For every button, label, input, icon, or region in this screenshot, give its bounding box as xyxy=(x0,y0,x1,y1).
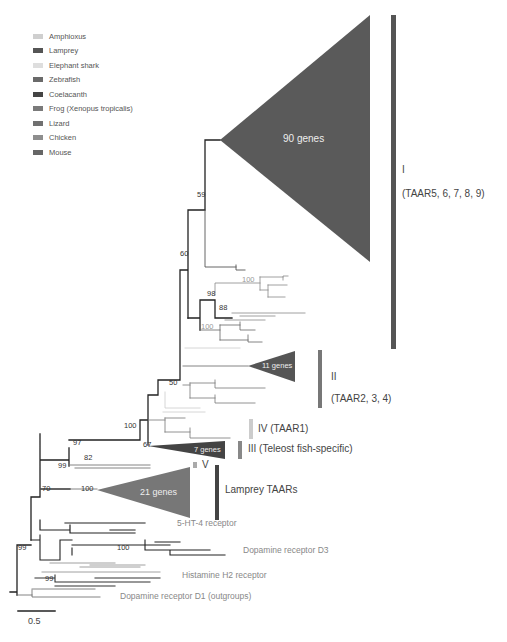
clade-III-gene-count: 7 genes xyxy=(194,445,221,454)
bootstrap-value: 100 xyxy=(124,421,137,430)
clade-III-label: III (Teleost fish-specific) xyxy=(248,443,352,454)
bootstrap-value: 99 xyxy=(45,574,53,583)
bootstrap-value: 50 xyxy=(169,378,177,387)
legend-swatch xyxy=(33,135,43,140)
clade-V-label: V xyxy=(202,459,209,470)
bootstrap-value: 100 xyxy=(242,275,255,284)
legend-item: Mouse xyxy=(33,145,133,160)
clade-I-description: (TAAR5, 6, 7, 8, 9) xyxy=(402,188,485,199)
legend-item: Elephant shark xyxy=(33,58,133,73)
clade-II-description: (TAAR2, 3, 4) xyxy=(331,393,391,404)
bootstrap-value: 99 xyxy=(18,543,26,552)
clade-I-gene-count: 90 genes xyxy=(283,133,324,144)
legend-swatch xyxy=(33,63,43,68)
legend-item: Frog (Xenopus tropicalis) xyxy=(33,102,133,117)
scale-bar-label: 0.5 xyxy=(28,616,41,626)
outgroup-d3: Dopamine receptor D3 xyxy=(243,545,329,555)
legend-swatch xyxy=(33,77,43,82)
legend-swatch xyxy=(33,106,43,111)
clade-III-bar xyxy=(238,441,242,459)
legend-swatch xyxy=(33,150,43,155)
legend-item: Amphioxus xyxy=(33,29,133,44)
bootstrap-value: 88 xyxy=(219,303,227,312)
legend-item: Lamprey xyxy=(33,44,133,59)
bootstrap-value: 60 xyxy=(180,249,188,258)
lamprey-taars-label: Lamprey TAARs xyxy=(225,484,297,495)
clade-IV-label: IV (TAAR1) xyxy=(258,423,308,434)
bootstrap-value: 97 xyxy=(73,438,81,447)
legend-item: Lizard xyxy=(33,116,133,131)
legend-swatch xyxy=(33,92,43,97)
bootstrap-value: 100 xyxy=(117,543,130,552)
clade-V-bar xyxy=(193,462,197,468)
bootstrap-value: 82 xyxy=(84,453,92,462)
species-legend: Amphioxus Lamprey Elephant shark Zebrafi… xyxy=(33,29,133,160)
outgroup-h2: Histamine H2 receptor xyxy=(182,570,267,580)
bootstrap-value: 100 xyxy=(81,484,94,493)
clade-IV-bar xyxy=(249,419,253,439)
outgroup-d1: Dopamine receptor D1 (outgroups) xyxy=(120,591,251,601)
bootstrap-value: 99 xyxy=(58,461,66,470)
bootstrap-value: 70 xyxy=(42,484,50,493)
clade-I-numeral: I xyxy=(402,164,405,175)
legend-item: Chicken xyxy=(33,131,133,146)
outgroup-5ht4: 5-HT-4 receptor xyxy=(177,518,237,528)
lamprey-gene-count: 21 genes xyxy=(140,487,177,497)
legend-swatch xyxy=(33,121,43,126)
bootstrap-value: 98 xyxy=(207,289,215,298)
legend-swatch xyxy=(33,48,43,53)
bootstrap-value: 67 xyxy=(143,440,151,449)
clade-II-bar xyxy=(318,350,322,408)
bootstrap-value: 100 xyxy=(201,322,214,331)
lamprey-bar xyxy=(215,465,219,520)
legend-item: Coelacanth xyxy=(33,87,133,102)
clade-II-numeral: II xyxy=(331,371,337,382)
legend-swatch xyxy=(33,34,43,39)
bootstrap-value: 59 xyxy=(197,190,205,199)
legend-item: Zebrafish xyxy=(33,73,133,88)
clade-I-bar xyxy=(391,15,396,349)
clade-II-gene-count: 11 genes xyxy=(262,361,292,370)
